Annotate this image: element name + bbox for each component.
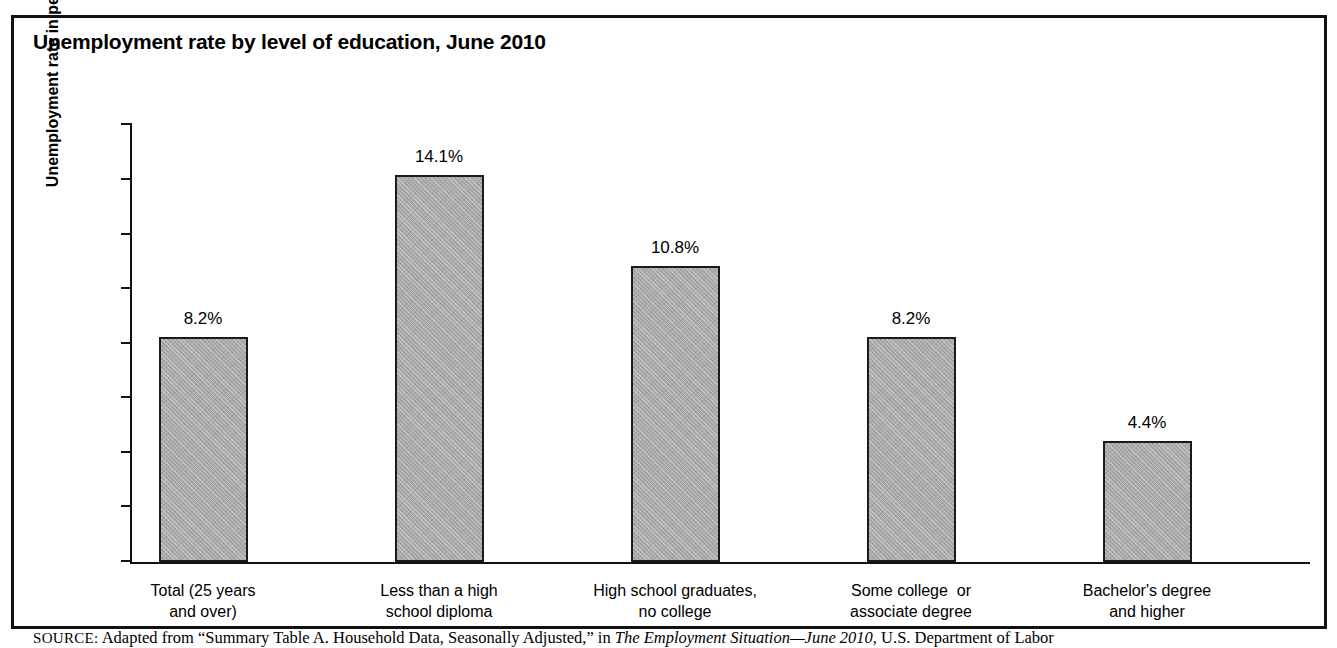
y-tick-mark bbox=[121, 560, 130, 562]
bar-some-college-associate bbox=[867, 337, 956, 562]
y-tick-mark bbox=[121, 396, 130, 398]
x-category-label: High school graduates,no college bbox=[545, 580, 805, 622]
source-note-text-before: Adapted from “Summary Table A. Household… bbox=[98, 628, 614, 647]
x-axis-line bbox=[130, 562, 1310, 564]
bar-bachelors-and-higher bbox=[1103, 441, 1192, 562]
y-tick-mark bbox=[121, 287, 130, 289]
source-note-publication-title: The Employment Situation—June 2010 bbox=[615, 628, 873, 647]
chart-title: Unemployment rate by level of education,… bbox=[33, 30, 546, 54]
bar-value-label: 8.2% bbox=[851, 309, 971, 329]
bar-total-25-and-over bbox=[159, 337, 248, 562]
y-axis-line bbox=[130, 123, 132, 562]
plot-area: 0% 2% 4% 6% 8% 10% 12% 14% 16% 8.2% 14.1… bbox=[130, 123, 1310, 562]
source-note-prefix: SOURCE: bbox=[33, 630, 98, 646]
x-category-label: Bachelor's degreeand higher bbox=[1017, 580, 1277, 622]
bar-value-label: 4.4% bbox=[1087, 413, 1207, 433]
bar-high-school-graduates bbox=[631, 266, 720, 562]
bar-less-than-high-school bbox=[395, 175, 484, 562]
y-tick-mark bbox=[121, 233, 130, 235]
bar-value-label: 14.1% bbox=[379, 147, 499, 167]
y-tick-mark bbox=[121, 178, 130, 180]
source-note-text-after: , U.S. Department of Labor bbox=[873, 628, 1054, 647]
source-note: SOURCE: Adapted from “Summary Table A. H… bbox=[33, 628, 1313, 648]
y-axis-title: Unemployment rate in percent bbox=[44, 0, 62, 192]
bar-value-label: 10.8% bbox=[615, 238, 735, 258]
y-tick-mark bbox=[121, 123, 130, 125]
y-tick-mark bbox=[121, 505, 130, 507]
x-category-label: Some college orassociate degree bbox=[781, 580, 1041, 622]
bar-value-label: 8.2% bbox=[143, 309, 263, 329]
y-tick-mark bbox=[121, 451, 130, 453]
y-tick-mark bbox=[121, 342, 130, 344]
x-category-label: Less than a highschool diploma bbox=[309, 580, 569, 622]
x-category-label: Total (25 yearsand over) bbox=[73, 580, 333, 622]
